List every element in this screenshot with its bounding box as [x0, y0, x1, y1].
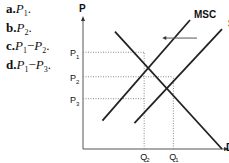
curve-label-s: S: [228, 18, 229, 29]
x-tick-subscript: 1: [175, 157, 179, 163]
curve-s: [134, 29, 222, 123]
externality-chart: P P1P2P3Q2Q1MSCSD: [0, 0, 229, 163]
curve-label-msc: MSC: [194, 9, 216, 20]
y-axis-arrow-icon: [81, 16, 85, 21]
y-axis-label: P: [79, 3, 86, 14]
x-tick-subscript: 2: [146, 157, 150, 163]
shift-arrow-head-icon: [162, 36, 166, 40]
y-tick-subscript: 2: [76, 79, 80, 85]
y-tick-subscript: 1: [76, 54, 80, 60]
curve-msc: [102, 20, 190, 121]
curve-d: [115, 32, 222, 149]
y-tick-subscript: 3: [76, 101, 80, 107]
curve-label-d: D: [226, 142, 229, 153]
